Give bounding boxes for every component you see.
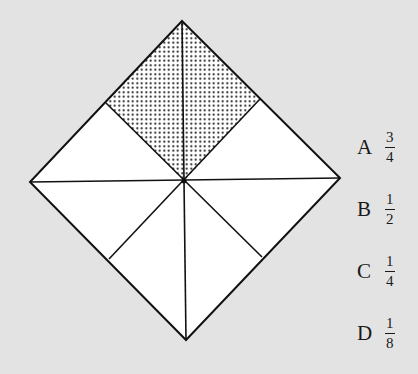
fraction: 1 2 (385, 192, 395, 227)
option-letter: C (357, 261, 385, 282)
denominator: 4 (386, 272, 394, 289)
fraction: 1 4 (385, 254, 395, 289)
center-point (182, 179, 187, 184)
option-b[interactable]: B 1 2 (357, 192, 395, 227)
fraction: 3 4 (385, 130, 395, 165)
option-letter: B (357, 199, 385, 220)
denominator: 2 (386, 210, 394, 227)
option-c[interactable]: C 1 4 (357, 254, 395, 289)
option-letter: D (357, 323, 385, 344)
option-a[interactable]: A 3 4 (357, 130, 395, 165)
fraction: 1 8 (385, 316, 395, 351)
numerator: 1 (385, 192, 395, 210)
numerator: 3 (385, 130, 395, 148)
numerator: 1 (385, 254, 395, 272)
option-d[interactable]: D 1 8 (357, 316, 395, 351)
denominator: 8 (386, 334, 394, 351)
option-letter: A (357, 137, 385, 158)
numerator: 1 (385, 316, 395, 334)
diamond-fraction-diagram (0, 0, 418, 374)
denominator: 4 (386, 148, 394, 165)
